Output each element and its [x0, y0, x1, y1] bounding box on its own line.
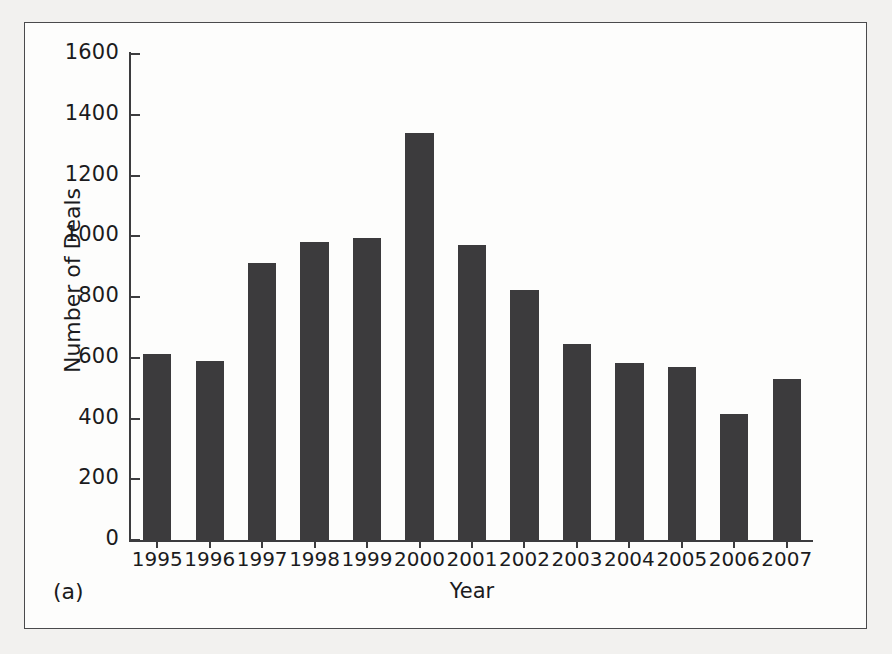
bar: [405, 133, 433, 540]
bar: [668, 367, 696, 540]
y-axis-tick-label: 1200: [33, 162, 119, 186]
x-axis-tick-labels: 1995199619971998199920002001200220032004…: [131, 547, 813, 577]
y-axis-tick-label: 1000: [33, 222, 119, 246]
x-axis-tick-label: 1995: [131, 547, 183, 571]
bar: [248, 263, 276, 540]
bar: [563, 344, 591, 540]
bar: [615, 363, 643, 540]
bar: [196, 361, 224, 540]
panel-label: (a): [53, 579, 84, 604]
x-axis-tick-label: 1998: [288, 547, 340, 571]
bar: [458, 245, 486, 540]
x-axis-tick-label: 1999: [341, 547, 393, 571]
bar: [510, 290, 538, 540]
scanned-page: Number of Deals 020040060080010001200140…: [0, 0, 892, 654]
bar: [720, 414, 748, 540]
bar: [353, 238, 381, 540]
y-axis-tick-label: 1400: [33, 101, 119, 125]
y-axis-tick-label: 1600: [33, 40, 119, 64]
bar: [773, 379, 801, 540]
y-axis-tick-label: 600: [33, 344, 119, 368]
x-axis-tick-label: 1997: [236, 547, 288, 571]
x-axis-tick-label: 2001: [446, 547, 498, 571]
figure-frame: Number of Deals 020040060080010001200140…: [24, 22, 867, 629]
x-axis-tick-label: 2000: [393, 547, 445, 571]
x-axis-tick-label: 1996: [183, 547, 235, 571]
y-axis-tick-label: 200: [33, 465, 119, 489]
x-axis-tick-label: 2005: [656, 547, 708, 571]
x-axis-tick-label: 2002: [498, 547, 550, 571]
x-axis-tick-label: 2003: [551, 547, 603, 571]
bar: [143, 354, 171, 540]
x-axis-tick-label: 2006: [708, 547, 760, 571]
x-axis-tick-label: 2007: [761, 547, 813, 571]
bar: [300, 242, 328, 540]
y-axis-tick-label: 0: [33, 526, 119, 550]
bar-series: [131, 54, 813, 540]
x-axis-title: Year: [131, 579, 813, 603]
x-axis-tick-label: 2004: [603, 547, 655, 571]
y-axis-tick-label: 800: [33, 283, 119, 307]
y-axis-tick-label: 400: [33, 405, 119, 429]
